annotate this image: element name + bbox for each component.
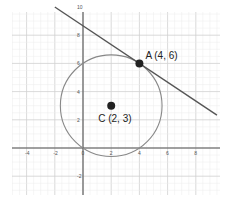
svg-text:2: 2 [77,117,80,123]
svg-text:-4: -4 [25,150,30,156]
svg-text:-2: -2 [53,150,58,156]
point-c-marker [107,102,115,110]
point-a-label: A (4, 6) [145,50,177,61]
svg-text:-2: -2 [77,173,82,179]
point-c-label: C (2, 3) [98,113,131,124]
svg-text:10: 10 [77,4,83,10]
grid-lines [12,12,220,195]
svg-text:8: 8 [77,32,80,38]
svg-text:6: 6 [166,150,169,156]
coordinate-plane: -4-202468-2246810 A (4, 6) C (2, 3) [0,0,233,206]
svg-text:4: 4 [138,150,141,156]
point-a-marker [135,59,143,67]
svg-text:4: 4 [77,89,80,95]
svg-text:2: 2 [110,150,113,156]
svg-text:0: 0 [82,150,85,156]
svg-text:8: 8 [194,150,197,156]
